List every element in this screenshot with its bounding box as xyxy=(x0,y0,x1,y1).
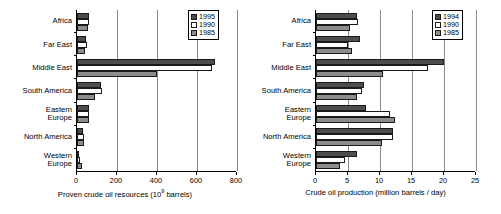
category-label-north-america: North America xyxy=(0,133,72,141)
figure-two-bar-charts: AfricaFar EastMiddle EastSouth AmericaEa… xyxy=(0,0,501,214)
gridline xyxy=(117,10,118,171)
category-tick xyxy=(313,125,316,126)
bar-south-america-1985 xyxy=(316,94,357,100)
category-label-middle-east: Middle East xyxy=(0,64,72,72)
category-tick xyxy=(74,102,77,103)
category-label-eastern-europe: EasternEurope xyxy=(250,106,311,123)
category-label-line: Africa xyxy=(0,17,72,25)
category-label-western-europe: WesternEurope xyxy=(0,152,72,169)
legend-item-1985[interactable]: 1985 xyxy=(191,29,215,37)
legend-label: 1985 xyxy=(443,29,459,37)
legend-label: 1985 xyxy=(199,29,215,37)
category-label-far-east: Far East xyxy=(250,41,311,49)
x-axis-tick xyxy=(347,172,348,175)
bar-far-east-1985 xyxy=(316,48,352,54)
category-label-south-america: South America xyxy=(0,87,72,95)
category-label-line: Middle East xyxy=(0,64,72,72)
bar-north-america-1985 xyxy=(77,140,84,146)
x-axis-tick xyxy=(379,172,380,175)
chart-proven-crude-oil-resources: AfricaFar EastMiddle EastSouth AmericaEa… xyxy=(0,0,250,214)
legend-swatch-icon xyxy=(435,30,441,36)
category-tick xyxy=(74,55,77,56)
category-label-line: Europe xyxy=(250,160,311,168)
bar-middle-east-1985 xyxy=(77,71,157,77)
gridline xyxy=(476,10,477,171)
category-label-line: North America xyxy=(250,133,311,141)
x-axis-tick-label: 15 xyxy=(407,177,415,185)
legend-item-1985[interactable]: 1985 xyxy=(435,29,459,37)
x-axis-tick-label: 0 xyxy=(313,177,317,185)
chart-crude-oil-production: AfricaFar EastMiddle EastSouth AmericaEa… xyxy=(250,0,501,214)
legend[interactable]: 199419901985 xyxy=(432,10,463,40)
x-axis-title-exponent: 9 xyxy=(161,188,164,194)
category-tick xyxy=(313,32,316,33)
legend-swatch-icon xyxy=(191,14,197,20)
category-tick xyxy=(313,55,316,56)
bar-western-europe-1985 xyxy=(77,163,82,169)
x-axis-tick-label: 10 xyxy=(375,177,383,185)
category-tick xyxy=(313,102,316,103)
bar-north-america-1985 xyxy=(316,140,382,146)
category-label-line: South America xyxy=(250,87,311,95)
gridline xyxy=(380,10,381,171)
x-axis-tick xyxy=(156,172,157,175)
category-tick xyxy=(74,78,77,79)
bar-western-europe-1985 xyxy=(316,163,340,169)
category-label-line: North America xyxy=(0,133,72,141)
category-label-south-america: South America xyxy=(250,87,311,95)
bar-south-america-1985 xyxy=(77,94,95,100)
category-tick xyxy=(313,78,316,79)
category-label-middle-east: Middle East xyxy=(250,64,311,72)
category-tick xyxy=(74,125,77,126)
bar-africa-1985 xyxy=(316,25,350,31)
category-label-line: Europe xyxy=(0,114,72,122)
legend-swatch-icon xyxy=(191,30,197,36)
x-axis-tick xyxy=(116,172,117,175)
category-label-line: Europe xyxy=(250,114,311,122)
x-axis-tick-label: 25 xyxy=(471,177,479,185)
x-axis-tick xyxy=(236,172,237,175)
category-label-north-america: North America xyxy=(250,133,311,141)
x-axis-tick xyxy=(76,172,77,175)
category-label-line: Far East xyxy=(0,41,72,49)
bar-eastern-europe-1985 xyxy=(77,117,89,123)
category-label-western-europe: WesternEurope xyxy=(250,152,311,169)
legend[interactable]: 199519901985 xyxy=(188,10,219,40)
category-label-line: Far East xyxy=(250,41,311,49)
category-label-line: Middle East xyxy=(250,64,311,72)
x-axis-tick-label: 20 xyxy=(439,177,447,185)
x-axis-tick xyxy=(196,172,197,175)
category-label-line: South America xyxy=(0,87,72,95)
x-axis-title: Crude oil production (million barrels / … xyxy=(250,188,501,197)
category-label-africa: Africa xyxy=(250,17,311,25)
category-label-line: Europe xyxy=(0,160,72,168)
bar-eastern-europe-1985 xyxy=(316,117,395,123)
x-axis-tick xyxy=(443,172,444,175)
x-axis-tick xyxy=(411,172,412,175)
x-axis-tick-label: 800 xyxy=(230,177,242,185)
x-axis-title: Proven crude oil resources (109 barrels) xyxy=(0,188,250,199)
gridline xyxy=(157,10,158,171)
bar-middle-east-1985 xyxy=(316,71,383,77)
x-axis-tick-label: 400 xyxy=(150,177,162,185)
category-label-africa: Africa xyxy=(0,17,72,25)
legend-swatch-icon xyxy=(435,22,441,28)
x-axis-tick-label: 5 xyxy=(345,177,349,185)
bar-far-east-1985 xyxy=(77,48,85,54)
legend-swatch-icon xyxy=(191,22,197,28)
category-tick xyxy=(74,32,77,33)
x-axis-tick-label: 0 xyxy=(74,177,78,185)
x-axis-tick xyxy=(475,172,476,175)
category-label-line: Africa xyxy=(250,17,311,25)
category-tick xyxy=(313,148,316,149)
gridline xyxy=(412,10,413,171)
x-axis-tick-label: 600 xyxy=(190,177,202,185)
category-tick xyxy=(74,148,77,149)
gridline xyxy=(237,10,238,171)
x-axis-tick-label: 200 xyxy=(110,177,122,185)
legend-swatch-icon xyxy=(435,14,441,20)
bar-africa-1985 xyxy=(77,25,88,31)
category-label-eastern-europe: EasternEurope xyxy=(0,106,72,123)
x-axis-tick xyxy=(315,172,316,175)
category-label-far-east: Far East xyxy=(0,41,72,49)
